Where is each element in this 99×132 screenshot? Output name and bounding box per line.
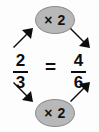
arrow-northeast-icon (68, 80, 92, 104)
arrow-southeast-icon (11, 80, 35, 104)
arrow-southeast-icon (68, 26, 92, 50)
equivalent-fractions-diagram: × 2 × 2 2 3 = 4 6 (0, 0, 99, 132)
multiplier-label-bottom: × 2 (44, 106, 65, 120)
fraction-left-numerator: 2 (15, 52, 26, 70)
equals-sign: = (45, 57, 56, 76)
fraction-right-numerator: 4 (73, 52, 84, 70)
arrow-northeast-icon (11, 26, 35, 50)
multiplier-label-top: × 2 (44, 13, 65, 27)
